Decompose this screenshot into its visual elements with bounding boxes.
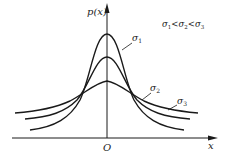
sigma-relation: σ1<σ2<σ3 <box>162 19 205 30</box>
label-sigma3: σ3 <box>177 96 187 107</box>
label-sigma2: σ2 <box>150 83 160 94</box>
leader-sigma1 <box>122 43 132 50</box>
y-axis-label: p(x) <box>87 6 107 17</box>
leader-sigma2 <box>142 93 151 100</box>
x-axis-label: x <box>208 140 214 151</box>
normal-distribution-diagram: p(x) x O σ1 σ2 σ3 σ1<σ2<σ3 <box>0 0 225 159</box>
label-sigma1: σ1 <box>132 33 142 44</box>
origin-label: O <box>103 142 111 153</box>
